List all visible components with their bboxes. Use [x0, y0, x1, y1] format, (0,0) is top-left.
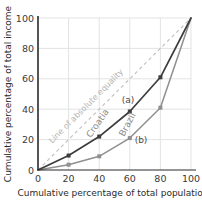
y-tick-40: 40 [22, 104, 34, 115]
y-tick-20: 20 [22, 134, 34, 145]
x-tick-labels: 0 20 40 60 80 100 [35, 173, 200, 184]
data-point-brazil-40 [97, 154, 101, 158]
chart-svg: 100 80 60 40 20 0 0 20 40 60 80 100 Cumu… [0, 0, 202, 213]
x-tick-0: 0 [35, 173, 41, 184]
y-axis-title: Cumulative percentage of total income [3, 5, 13, 182]
y-tick-80: 80 [22, 43, 34, 54]
y-tick-100: 100 [16, 13, 34, 24]
lorenz-curve-chart: 100 80 60 40 20 0 0 20 40 60 80 100 Cumu… [0, 0, 202, 213]
x-axis-title: Cumulative percentage of total populatio… [17, 188, 202, 198]
x-tick-80: 80 [154, 173, 166, 184]
data-point-brazil-60 [128, 136, 132, 140]
data-point-brazil-80 [158, 106, 162, 110]
x-tick-40: 40 [93, 173, 105, 184]
y-tick-labels: 100 80 60 40 20 0 [16, 13, 34, 176]
annotation-label-a: (a) [122, 95, 135, 105]
data-point-croatia-80 [158, 75, 162, 79]
x-tick-60: 60 [124, 173, 136, 184]
data-point-croatia-40 [97, 135, 101, 139]
data-point-croatia-20 [67, 154, 71, 158]
y-tick-60: 60 [22, 73, 34, 84]
x-tick-20: 20 [63, 173, 75, 184]
x-tick-100: 100 [182, 173, 200, 184]
data-point-brazil-20 [67, 163, 71, 167]
annotation-label-b: (b) [135, 135, 148, 145]
y-tick-0: 0 [28, 165, 34, 176]
